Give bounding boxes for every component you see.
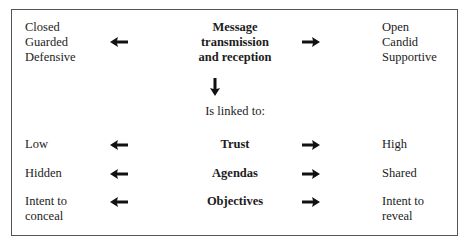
row-objectives-center: Objectives (175, 194, 295, 209)
row-agendas-left: Hidden (25, 166, 62, 181)
top-right-label-2: Candid (382, 35, 418, 50)
row-objectives-right-2: reveal (382, 209, 413, 224)
row-agendas-right: Shared (382, 166, 417, 181)
row-trust-left: Low (25, 137, 48, 152)
row-trust-center: Trust (175, 137, 295, 152)
center-title-1: Message (175, 20, 295, 35)
arrow-left-icon (110, 140, 128, 150)
arrow-right-icon (302, 169, 320, 179)
row-objectives-right-1: Intent to (382, 194, 424, 209)
arrow-left-icon (110, 37, 128, 47)
arrow-left-icon (110, 197, 128, 207)
linked-label: Is linked to: (175, 104, 295, 119)
arrow-right-icon (302, 37, 320, 47)
center-title-3: and reception (175, 50, 295, 65)
top-left-label-1: Closed (25, 20, 60, 35)
arrow-down-icon (210, 78, 220, 96)
arrow-left-icon (110, 169, 128, 179)
arrow-right-icon (302, 197, 320, 207)
top-right-label-3: Supportive (382, 50, 437, 65)
top-left-label-2: Guarded (25, 35, 68, 50)
row-agendas-center: Agendas (175, 166, 295, 181)
top-right-label-1: Open (382, 20, 409, 35)
center-title-2: transmission (175, 35, 295, 50)
row-trust-right: High (382, 137, 407, 152)
row-objectives-left-1: Intent to (25, 194, 67, 209)
row-objectives-left-2: conceal (25, 209, 63, 224)
arrow-right-icon (302, 140, 320, 150)
top-left-label-3: Defensive (25, 50, 76, 65)
